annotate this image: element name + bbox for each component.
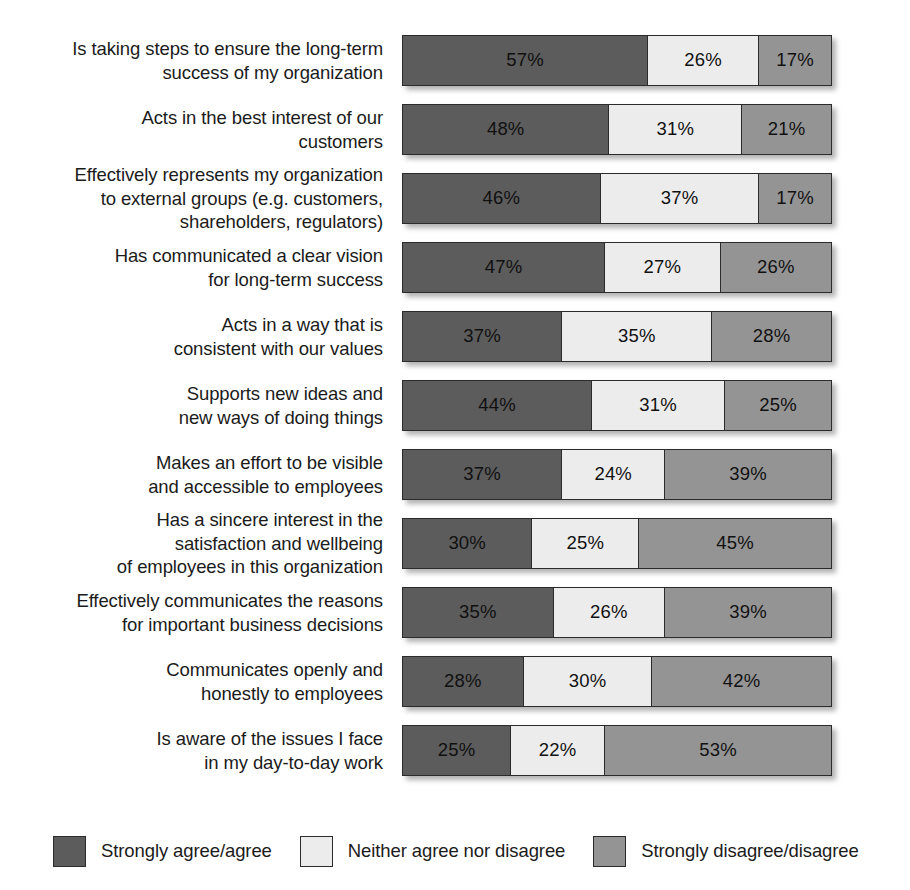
bar-segment[interactable]: 25% [724,381,831,430]
legend-swatch [53,836,86,867]
chart-row: Acts in a way that is consistent with ou… [0,302,910,371]
segment-value-label: 31% [639,396,677,415]
category-label: Makes an effort to be visible and access… [0,451,383,498]
segment-value-label: 17% [776,189,814,208]
bar-wrapper: 37%24%39% [402,449,832,500]
bar-segment[interactable]: 26% [720,243,831,292]
segment-value-label: 53% [699,741,737,760]
category-label: Is aware of the issues I face in my day-… [0,727,383,774]
segment-value-label: 25% [567,534,605,553]
bar-segment[interactable]: 30% [403,519,531,568]
chart-row: Communicates openly and honestly to empl… [0,647,910,716]
segment-value-label: 26% [684,51,722,70]
bar-wrapper: 25%22%53% [402,725,832,776]
category-label: Has a sincere interest in the satisfacti… [0,508,383,579]
category-label: Acts in the best interest of our custome… [0,106,383,153]
bar-segment[interactable]: 31% [608,105,741,154]
segment-value-label: 39% [729,465,767,484]
bar-segment[interactable]: 39% [664,588,831,637]
bar-segment[interactable]: 27% [604,243,720,292]
bar-wrapper: 47%27%26% [402,242,832,293]
segment-value-label: 22% [539,741,577,760]
category-label: Effectively represents my organization t… [0,163,383,234]
segment-value-label: 26% [757,258,795,277]
bar-segment[interactable]: 48% [403,105,608,154]
bar-segment[interactable]: 53% [604,726,831,775]
stacked-bar-chart: Is taking steps to ensure the long-term … [0,0,910,890]
stacked-bar[interactable]: 47%27%26% [402,242,832,293]
bar-segment[interactable]: 47% [403,243,604,292]
bar-segment[interactable]: 30% [523,657,651,706]
chart-row: Is aware of the issues I face in my day-… [0,716,910,785]
bar-segment[interactable]: 26% [553,588,664,637]
bar-segment[interactable]: 31% [591,381,724,430]
bar-wrapper: 48%31%21% [402,104,832,155]
segment-value-label: 28% [444,672,482,691]
segment-value-label: 35% [618,327,656,346]
legend-swatch [593,836,626,867]
chart-row: Has a sincere interest in the satisfacti… [0,509,910,578]
bar-segment[interactable]: 57% [403,36,647,85]
legend-label: Neither agree nor disagree [348,842,565,861]
bar-segment[interactable]: 37% [403,312,561,361]
bar-segment[interactable]: 35% [403,588,553,637]
bar-segment[interactable]: 17% [758,36,831,85]
category-label: Is taking steps to ensure the long-term … [0,37,383,84]
bar-segment[interactable]: 21% [741,105,831,154]
stacked-bar[interactable]: 46%37%17% [402,173,832,224]
segment-value-label: 37% [463,465,501,484]
bar-wrapper: 46%37%17% [402,173,832,224]
category-label: Effectively communicates the reasons for… [0,589,383,636]
bar-segment[interactable]: 26% [647,36,758,85]
legend-label: Strongly disagree/disagree [641,842,858,861]
segment-value-label: 39% [729,603,767,622]
stacked-bar[interactable]: 48%31%21% [402,104,832,155]
stacked-bar[interactable]: 44%31%25% [402,380,832,431]
bar-segment[interactable]: 25% [403,726,510,775]
segment-value-label: 42% [723,672,761,691]
stacked-bar[interactable]: 28%30%42% [402,656,832,707]
segment-value-label: 45% [716,534,754,553]
category-label: Supports new ideas and new ways of doing… [0,382,383,429]
bar-segment[interactable]: 37% [600,174,758,223]
segment-value-label: 28% [753,327,791,346]
bar-segment[interactable]: 35% [561,312,711,361]
stacked-bar[interactable]: 37%24%39% [402,449,832,500]
segment-value-label: 25% [438,741,476,760]
stacked-bar[interactable]: 57%26%17% [402,35,832,86]
legend-item[interactable]: Strongly disagree/disagree [593,836,858,867]
bar-wrapper: 37%35%28% [402,311,832,362]
bar-segment[interactable]: 37% [403,450,561,499]
bar-segment[interactable]: 46% [403,174,600,223]
segment-value-label: 26% [590,603,628,622]
segment-value-label: 30% [569,672,607,691]
bar-segment[interactable]: 25% [531,519,638,568]
chart-row: Effectively represents my organization t… [0,164,910,233]
bar-wrapper: 35%26%39% [402,587,832,638]
segment-value-label: 17% [776,51,814,70]
bar-segment[interactable]: 45% [638,519,831,568]
chart-row: Effectively communicates the reasons for… [0,578,910,647]
bar-wrapper: 44%31%25% [402,380,832,431]
chart-row: Has communicated a clear vision for long… [0,233,910,302]
bar-segment[interactable]: 24% [561,450,664,499]
bar-segment[interactable]: 28% [711,312,831,361]
bar-segment[interactable]: 39% [664,450,831,499]
bar-segment[interactable]: 42% [651,657,831,706]
category-label: Acts in a way that is consistent with ou… [0,313,383,360]
stacked-bar[interactable]: 30%25%45% [402,518,832,569]
bar-segment[interactable]: 28% [403,657,523,706]
stacked-bar[interactable]: 35%26%39% [402,587,832,638]
segment-value-label: 48% [487,120,525,139]
segment-value-label: 57% [506,51,544,70]
chart-row: Acts in the best interest of our custome… [0,95,910,164]
legend-item[interactable]: Neither agree nor disagree [300,836,565,867]
stacked-bar[interactable]: 25%22%53% [402,725,832,776]
chart-row: Supports new ideas and new ways of doing… [0,371,910,440]
legend-item[interactable]: Strongly agree/agree [53,836,272,867]
segment-value-label: 21% [768,120,806,139]
stacked-bar[interactable]: 37%35%28% [402,311,832,362]
bar-segment[interactable]: 44% [403,381,591,430]
bar-segment[interactable]: 17% [758,174,831,223]
bar-segment[interactable]: 22% [510,726,604,775]
